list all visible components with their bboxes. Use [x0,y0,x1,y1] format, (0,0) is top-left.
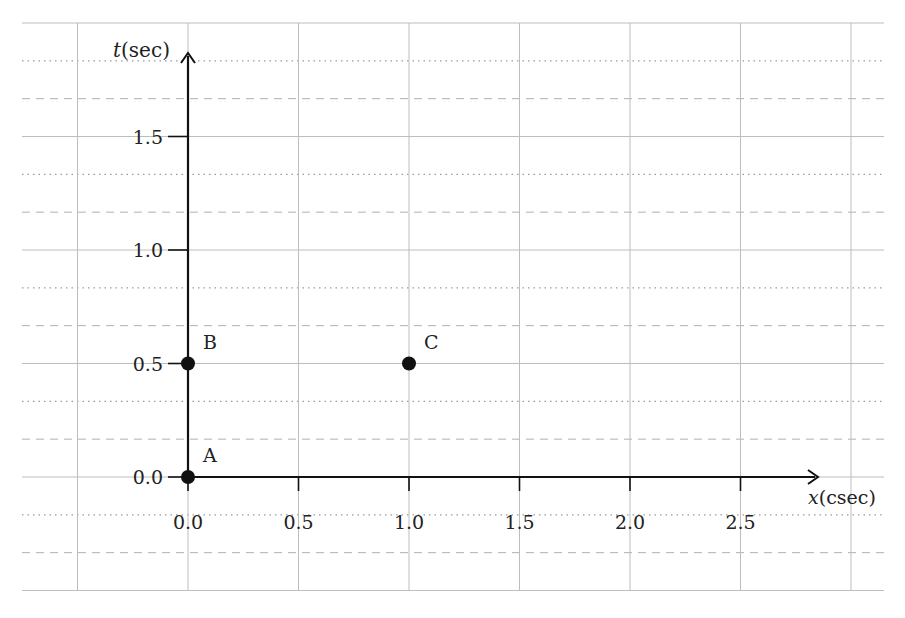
x-tick-label: 0.0 [173,511,203,533]
y-tick-label: 0.0 [133,466,163,488]
x-tick-label: 0.5 [283,511,313,533]
x-tick-label: 1.0 [394,511,424,533]
event-point-b [181,357,195,371]
y-tick-label: 1.5 [133,126,163,148]
axes [181,53,818,484]
grid-lines [22,23,884,591]
x-tick-label: 2.5 [725,511,755,533]
x-tick-label: 2.0 [615,511,645,533]
event-points: ABC [181,331,439,485]
event-point-c [402,357,416,371]
event-label-c: C [424,331,439,353]
x-tick-label: 1.5 [504,511,534,533]
ticks: 0.00.51.01.52.02.50.00.51.01.5 [133,126,756,534]
x-axis-label: x(csec) [808,486,876,508]
y-tick-label: 0.5 [133,353,163,375]
y-axis-label: t(sec) [113,38,170,62]
event-label-a: A [202,444,217,466]
event-label-b: B [203,331,217,353]
event-point-a [181,470,195,484]
spacetime-diagram: 0.00.51.01.52.02.50.00.51.01.5 ABC x(cse… [0,0,905,618]
y-tick-label: 1.0 [133,239,163,261]
